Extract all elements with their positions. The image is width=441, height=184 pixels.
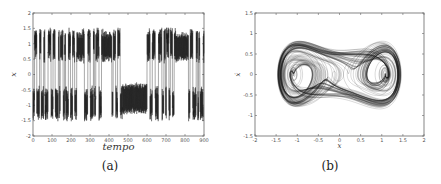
y-tick-label: -1 [26,102,31,108]
x-tick-label: 0.5 [357,137,365,143]
y-tick-label: -0.5 [243,92,253,98]
x-tick-label: 900 [199,137,209,143]
x-tick-label: 0 [31,137,34,143]
y-tick-label: 0 [28,71,31,77]
caption-a: (a) [90,159,130,173]
phase-portrait-plot: -2-1.5-1-0.500.511.52-1.5-1-0.500.511.5x… [220,0,441,184]
y-tick-label: 0.5 [23,56,31,62]
x-tick-label: -1 [295,137,300,143]
x-tick-label: 300 [85,137,95,143]
time-series-plot: 0100200300400500600700800900-2-1.5-1-0.5… [0,0,220,184]
x-tick-label: 600 [142,137,152,143]
y-tick-label: 0.5 [245,51,253,57]
x-axis-label: tempo [103,141,135,152]
y-tick-label: 1.5 [245,10,253,16]
axes: 0100200300400500600700800900-2-1.5-1-0.5… [21,10,209,143]
x-tick-label: 100 [47,137,57,143]
caption-b: (b) [310,159,350,173]
x-tick-label: 200 [66,137,76,143]
y-axis-label: x [9,72,18,77]
series-x-line [33,28,204,121]
y-tick-label: -2 [26,133,31,139]
x-tick-label: 1 [380,137,383,143]
y-axis-label: ẋ [234,72,242,76]
y-tick-label: -1.5 [243,133,253,139]
x-axis-label: x [338,142,342,150]
y-tick-label: 1 [28,41,31,47]
y-tick-label: 2 [28,10,31,16]
x-tick-label: -1.5 [271,137,281,143]
y-tick-label: 0 [250,71,253,77]
x-tick-label: -0.5 [313,137,323,143]
x-tick-label: 700 [161,137,171,143]
y-tick-label: 1.5 [23,25,31,31]
x-tick-label: 800 [180,137,190,143]
y-tick-label: -0.5 [21,87,31,93]
chart-panel-b: -2-1.5-1-0.500.511.52-1.5-1-0.500.511.5x… [220,0,441,184]
y-tick-label: -1 [248,112,253,118]
chart-panel-a: 0100200300400500600700800900-2-1.5-1-0.5… [0,0,220,184]
x-tick-label: -2 [253,137,258,143]
y-tick-label: -1.5 [21,117,31,123]
trajectory-line [278,41,402,109]
x-tick-label: 1.5 [399,137,407,143]
x-tick-label: 2 [422,137,425,143]
y-tick-label: 1 [250,30,253,36]
